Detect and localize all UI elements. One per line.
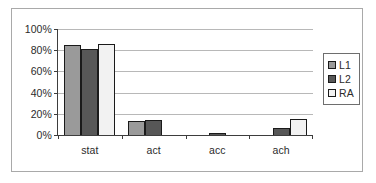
chart-figure: 0%20%40%60%80%100% statactaccach L1L2RA xyxy=(0,0,376,183)
y-axis-label: 0% xyxy=(37,129,52,141)
legend-swatch-icon xyxy=(328,75,336,83)
legend-item-ra[interactable]: RA xyxy=(328,86,354,100)
x-axis-label-ach: ach xyxy=(273,144,290,156)
bar-group-bars xyxy=(58,29,122,135)
bar-l2-ach[interactable] xyxy=(273,128,290,135)
bar-group-bars xyxy=(249,29,313,135)
bar-group: act xyxy=(122,29,186,135)
x-axis-tick xyxy=(186,135,187,139)
x-axis-label-act: act xyxy=(146,144,160,156)
bar-l2-stat[interactable] xyxy=(81,49,98,135)
legend-label: L2 xyxy=(339,74,351,85)
bar-ra-stat[interactable] xyxy=(98,44,115,135)
bar-group: stat xyxy=(58,29,122,135)
bar-l1-stat[interactable] xyxy=(64,45,81,135)
bar-group: acc xyxy=(186,29,250,135)
legend-swatch-icon xyxy=(328,61,336,69)
y-axis-label: 60% xyxy=(31,65,52,77)
legend-item-l1[interactable]: L1 xyxy=(328,58,354,72)
plot-area: 0%20%40%60%80%100% statactaccach xyxy=(57,29,313,136)
y-axis-label: 40% xyxy=(31,87,52,99)
x-axis-tick xyxy=(122,135,123,139)
x-axis-tick xyxy=(249,135,250,139)
chart-legend: L1L2RA xyxy=(323,53,360,105)
y-axis-label: 100% xyxy=(25,23,52,35)
bar-group: ach xyxy=(249,29,313,135)
bar-l2-acc[interactable] xyxy=(209,133,226,135)
legend-label: RA xyxy=(339,88,354,99)
y-axis-label: 20% xyxy=(31,108,52,120)
bar-group-bars xyxy=(122,29,186,135)
legend-item-l2[interactable]: L2 xyxy=(328,72,354,86)
legend-label: L1 xyxy=(339,60,351,71)
legend-swatch-icon xyxy=(328,89,336,97)
x-axis-label-stat: stat xyxy=(81,144,98,156)
bar-l2-act[interactable] xyxy=(145,120,162,135)
bar-group-bars xyxy=(186,29,250,135)
x-axis-tick xyxy=(312,135,313,139)
bar-ra-ach[interactable] xyxy=(290,119,307,135)
x-axis-label-acc: acc xyxy=(209,144,226,156)
y-axis-label: 80% xyxy=(31,44,52,56)
bar-l1-act[interactable] xyxy=(128,121,145,135)
x-axis-tick xyxy=(58,135,59,139)
